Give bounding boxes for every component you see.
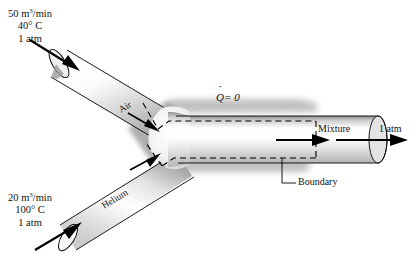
helium-flow-rate: 20 m3/min — [8, 192, 52, 204]
q-dot-symbol: Q — [216, 91, 224, 104]
helium-pressure: 1 atm — [8, 217, 52, 229]
q-dot-value: = 0 — [224, 91, 240, 103]
mixing-chamber-figure: 50 m3/min 40° C 1 atm 20 m3/min 100° C 1… — [0, 0, 420, 253]
air-temperature: 40° C — [8, 20, 52, 32]
air-pressure: 1 atm — [8, 33, 52, 45]
air-flow-rate: 50 m3/min — [8, 8, 52, 20]
helium-inlet-conditions: 20 m3/min 100° C 1 atm — [8, 192, 52, 229]
mixing-chamber-drawing — [0, 0, 420, 253]
boundary-label: Boundary — [298, 176, 337, 188]
heat-transfer-annotation: Q= 0 — [216, 91, 240, 104]
outlet-pressure-label: 1 atm — [379, 123, 402, 135]
mixture-pipe-label: Mixture — [318, 123, 350, 135]
air-inlet-conditions: 50 m3/min 40° C 1 atm — [8, 8, 52, 45]
helium-temperature: 100° C — [8, 204, 52, 216]
